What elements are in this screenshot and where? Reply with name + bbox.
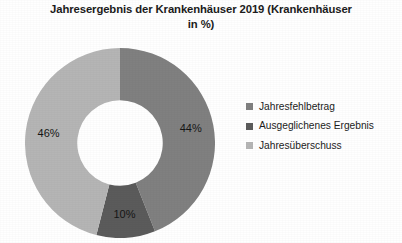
- legend-label: Jahresüberschuss: [259, 140, 342, 152]
- data-label-jahresueberschuss: 46%: [38, 127, 60, 139]
- chart-container: Jahresergebnis der Krankenhäuser 2019 (K…: [0, 0, 402, 243]
- legend-label: Ausgeglichenes Ergebnis: [259, 120, 374, 132]
- data-label-ausgeglichenes-ergebnis: 10%: [114, 208, 136, 220]
- legend-swatch-icon: [246, 103, 253, 110]
- doughnut-svg: 44% 10% 46%: [25, 48, 215, 238]
- legend-swatch-icon: [246, 142, 253, 149]
- chart-title: Jahresergebnis der Krankenhäuser 2019 (K…: [14, 2, 388, 31]
- chart-title-line-2: in %): [14, 17, 388, 32]
- chart-legend: Jahresfehlbetrag Ausgeglichenes Ergebnis…: [246, 97, 398, 156]
- chart-title-line-1: Jahresergebnis der Krankenhäuser 2019 (K…: [14, 2, 388, 17]
- legend-item-ausgeglichenes-ergebnis[interactable]: Ausgeglichenes Ergebnis: [246, 117, 398, 137]
- legend-label: Jahresfehlbetrag: [259, 101, 335, 113]
- data-label-jahresfehlbetrag: 44%: [180, 122, 202, 134]
- doughnut-chart: 44% 10% 46%: [25, 48, 215, 238]
- legend-swatch-icon: [246, 123, 253, 130]
- legend-item-jahresueberschuss[interactable]: Jahresüberschuss: [246, 136, 398, 156]
- legend-item-jahresfehlbetrag[interactable]: Jahresfehlbetrag: [246, 97, 398, 117]
